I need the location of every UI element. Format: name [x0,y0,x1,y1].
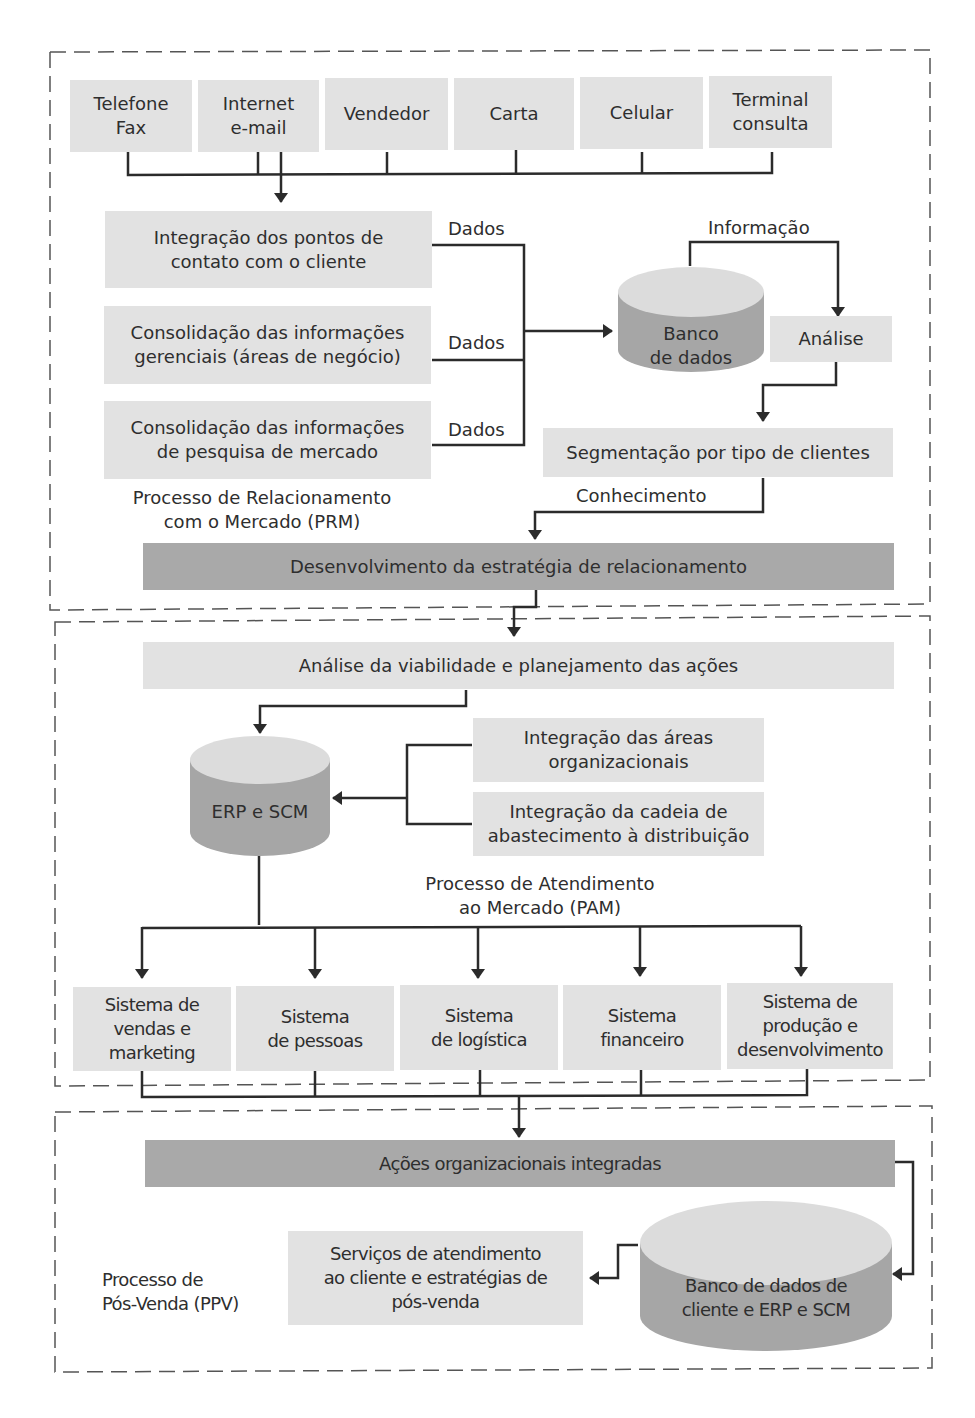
channels-bus-line [128,152,772,175]
channel-label: Fax [94,116,169,140]
system-sales-marketing: Sistema devendas emarketing [73,987,231,1071]
section-label-prm: Processo de Relacionamentocom o Mercado … [112,486,412,534]
arrow-to-services [590,1245,638,1278]
integrated-actions-label: Ações organizacionais integradas [379,1152,661,1176]
system-label: Sistema de [737,990,883,1014]
system-label: desenvolvimento [737,1038,883,1062]
flow-label-informacao: Informação [708,216,810,240]
source-consolidacao-pesquisa: Consolidação das informaçõesde pesquisa … [104,401,431,479]
source-integracao-pontos-contato: Integração dos pontos decontato com o cl… [105,211,432,288]
database-label: Bancode dados [618,322,764,370]
integration-label: Integração das áreas [524,726,713,750]
arrow-to-segmentation [763,362,836,421]
integration-areas-box: Integração das áreasorganizacionais [473,718,764,782]
strategy-label: Desenvolvimento da estratégia de relacio… [290,555,747,579]
segmentation-box: Segmentação por tipo de clientes [543,428,893,477]
channel-label: Telefone [94,92,169,116]
system-label: marketing [105,1041,200,1065]
channel-telefone-fax: TelefoneFax [70,80,192,152]
channel-label: Terminal [732,88,808,112]
database-label-line: de dados [618,346,764,370]
flow-label-dados-1: Dados [448,217,505,241]
arrow-to-customer-db [893,1162,913,1274]
planning-label: Análise da viabilidade e planejamento da… [299,654,738,678]
source-consolidacao-gerenciais: Consolidação das informaçõesgerenciais (… [104,306,431,384]
section-label-line: com o Mercado (PRM) [112,510,412,534]
channel-label: Vendedor [344,102,430,126]
strategy-development-box: Desenvolvimento da estratégia de relacio… [143,543,894,590]
system-production-development: Sistema deprodução edesenvolvimento [727,983,893,1069]
services-label: pós-venda [324,1290,548,1314]
system-label: financeiro [600,1028,683,1052]
source-label: contato com o cliente [154,250,383,274]
system-label: Sistema [268,1005,363,1029]
channel-vendedor: Vendedor [325,78,448,150]
section-label-line: Processo de [102,1268,239,1292]
channel-label: consulta [732,112,808,136]
channel-celular: Celular [580,77,703,149]
database-cylinder-erp [190,736,330,856]
section-label-line: Pós-Venda (PPV) [102,1292,239,1316]
channel-label: Celular [610,101,673,125]
channel-carta: Carta [454,78,574,150]
database-label-line: Banco de dados de [640,1274,892,1298]
customer-services-box: Serviços de atendimentoao cliente e estr… [288,1231,583,1325]
database-label-line: cliente e ERP e SCM [640,1298,892,1322]
source-label: Integração dos pontos de [154,226,383,250]
channel-label: Internet [223,92,294,116]
integration-label: organizacionais [524,750,713,774]
section-label-line: ao Mercado (PAM) [390,896,690,920]
integration-label: abastecimento à distribuição [488,824,750,848]
planning-box: Análise da viabilidade e planejamento da… [143,642,894,689]
system-logistics: Sistemade logística [400,985,558,1070]
channel-label: Carta [489,102,538,126]
system-label: vendas e [105,1017,200,1041]
arrow-to-erp [260,690,466,733]
system-label: Sistema [600,1004,683,1028]
database-label-line: Banco [618,322,764,346]
flow-label-dados-3: Dados [448,418,505,442]
system-label: Sistema de [105,993,200,1017]
system-label: de logística [431,1028,527,1052]
section-label-ppv: Processo dePós-Venda (PPV) [102,1268,239,1316]
channel-internet-email: Internete-mail [198,80,319,152]
system-financial: Sistemafinanceiro [563,985,721,1070]
section-label-pam: Processo de Atendimentoao Mercado (PAM) [390,872,690,920]
source-label: Consolidação das informações [131,416,405,440]
system-label: de pessoas [268,1029,363,1053]
channel-label: e-mail [223,116,294,140]
system-label: Sistema [431,1004,527,1028]
analysis-label: Análise [798,327,863,351]
system-label: produção e [737,1014,883,1038]
flow-label-conhecimento: Conhecimento [576,484,706,508]
source-label: de pesquisa de mercado [131,440,405,464]
flow-label-dados-2: Dados [448,331,505,355]
source-label: gerenciais (áreas de negócio) [131,345,405,369]
integration-supply-chain-box: Integração da cadeia deabastecimento à d… [473,792,764,856]
source-label: Consolidação das informações [131,321,405,345]
section-label-line: Processo de Relacionamento [112,486,412,510]
services-label: ao cliente e estratégias de [324,1266,548,1290]
erp-scm-label: ERP e SCM [190,800,330,824]
section-label-line: Processo de Atendimento [390,872,690,896]
analysis-box: Análise [770,316,892,362]
integration-label: Integração da cadeia de [488,800,750,824]
customer-database-label: Banco de dados decliente e ERP e SCM [640,1274,892,1322]
arrow-to-planning [514,588,536,636]
services-label: Serviços de atendimento [324,1242,548,1266]
channel-terminal-consulta: Terminalconsulta [709,76,832,148]
system-people: Sistemade pessoas [236,986,394,1071]
segmentation-label: Segmentação por tipo de clientes [566,441,870,465]
integrated-actions-box: Ações organizacionais integradas [145,1140,895,1187]
